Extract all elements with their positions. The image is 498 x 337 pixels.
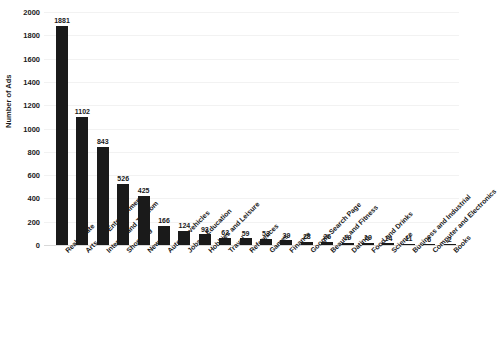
y-tick-label: 1400	[23, 77, 40, 86]
bar-slot: 39	[276, 12, 296, 245]
bar-slot: 53	[256, 12, 276, 245]
bar-value-label: 166	[154, 217, 174, 224]
bar-value-label: 1102	[72, 108, 92, 115]
y-tick-label: 1600	[23, 54, 40, 63]
y-tick-label: 1000	[23, 124, 40, 133]
y-tick-label: 800	[27, 147, 40, 156]
y-tick-label: 200	[27, 217, 40, 226]
y-tick-label: 0	[36, 241, 40, 250]
y-tick-label: 1200	[23, 101, 40, 110]
y-axis-title: Number of Ads	[4, 75, 13, 128]
bar-value-label: 843	[93, 138, 113, 145]
bar-value-label: 1881	[52, 17, 72, 24]
bar-slot: 1102	[72, 12, 92, 245]
y-tick-label: 1800	[23, 31, 40, 40]
bar-slot: 124	[174, 12, 194, 245]
bar-value-label: 425	[134, 187, 154, 194]
y-tick-label: 2000	[23, 8, 40, 17]
bar-slot: 843	[93, 12, 113, 245]
bar-slot: 6	[419, 12, 439, 245]
bar-value-label: 526	[113, 175, 133, 182]
bar-slot: 26	[317, 12, 337, 245]
y-tick-label: 600	[27, 171, 40, 180]
bar-slot: 166	[154, 12, 174, 245]
bar-slot: 14	[378, 12, 398, 245]
bar-slot: 28	[297, 12, 317, 245]
y-tick-label: 400	[27, 194, 40, 203]
bar	[56, 26, 68, 245]
bar-slot: 1881	[52, 12, 72, 245]
